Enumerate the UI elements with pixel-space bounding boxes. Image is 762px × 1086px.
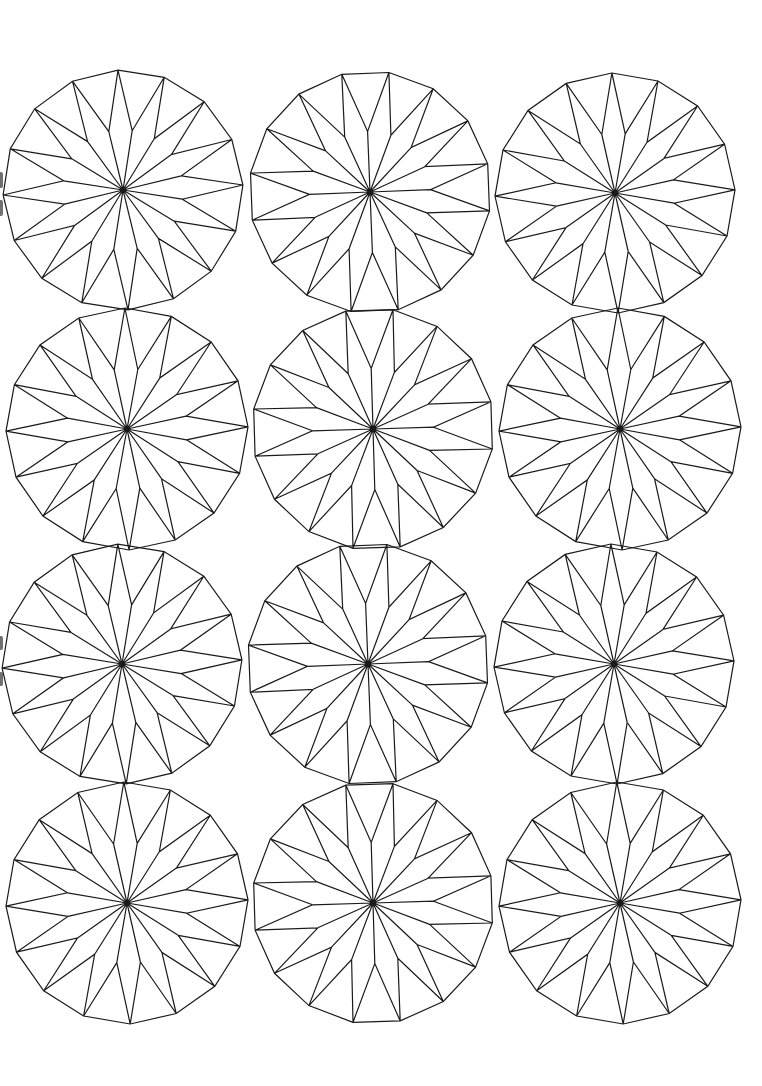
edge-mark [0, 200, 3, 216]
center-hub [124, 900, 130, 906]
center-hub [119, 661, 125, 667]
center-hub [367, 189, 373, 195]
rosette-r1-c1 [3, 70, 243, 310]
rosette-r3-c2 [249, 545, 488, 784]
rosette-r4-c3 [499, 782, 741, 1024]
center-hub [612, 190, 618, 196]
center-hub [617, 900, 623, 906]
rosette-r2-c3 [499, 308, 741, 550]
rosette-r1-c2 [251, 73, 490, 312]
edge-mark [0, 636, 3, 650]
center-hub [617, 426, 623, 432]
rosette-r3-c1 [2, 544, 242, 784]
edge-mark [0, 172, 3, 188]
center-hub [370, 426, 376, 432]
center-hub [124, 426, 130, 432]
edge-mark [0, 672, 3, 686]
coloring-page [0, 0, 762, 1086]
center-hub [365, 661, 371, 667]
rosette-r4-c2 [254, 784, 493, 1023]
rosette-r3-c3 [494, 544, 734, 784]
center-hub [370, 900, 376, 906]
rosette-r4-c1 [6, 782, 248, 1024]
center-hub [120, 187, 126, 193]
rosette-grid [0, 0, 762, 1086]
rosette-r1-c3 [495, 73, 735, 313]
rosette-r2-c2 [254, 310, 493, 549]
rosette-r2-c1 [6, 308, 248, 550]
center-hub [611, 661, 617, 667]
